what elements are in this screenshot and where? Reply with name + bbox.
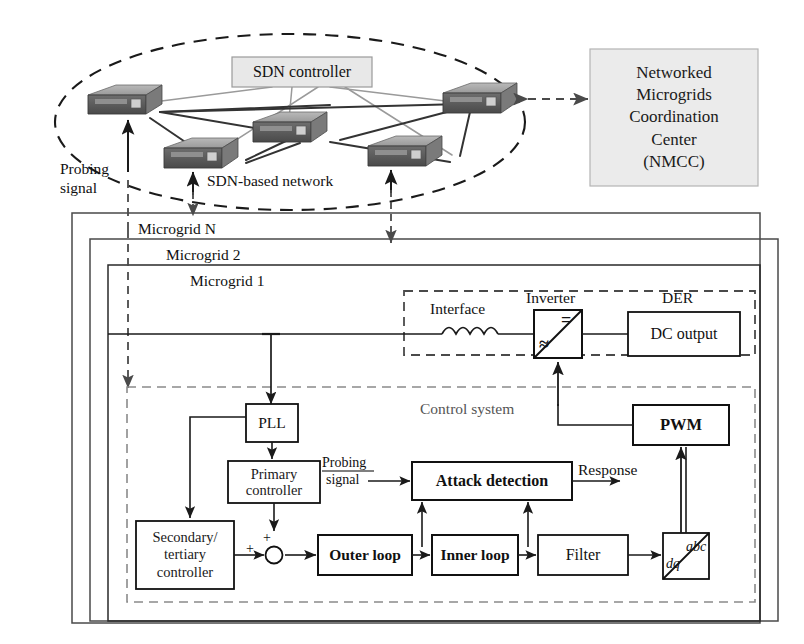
control-probing-label-line2: signal xyxy=(326,472,359,488)
probing-signal-label-line2: signal xyxy=(60,179,97,196)
secondary-controller-line-2: tertiary xyxy=(164,546,206,563)
inverter-dc-symbol: = xyxy=(561,310,571,330)
pll-label: PLL xyxy=(246,404,298,442)
router-icon xyxy=(164,138,238,168)
microgrid-1-label: Microgrid 1 xyxy=(190,272,264,289)
nmcc-line-3: Coordination xyxy=(629,106,719,128)
secondary-controller-line-3: controller xyxy=(157,564,213,581)
control-probing-label-line1: Probing xyxy=(322,455,366,471)
response-label: Response xyxy=(578,461,637,478)
control-system-label: Control system xyxy=(420,400,514,417)
router-icon xyxy=(253,112,327,142)
attack-detection-label: Attack detection xyxy=(412,462,572,500)
outer-loop-label: Outer loop xyxy=(318,535,412,575)
nmcc-line-5: (NMCC) xyxy=(643,151,704,173)
sum-sign-left: + xyxy=(246,541,254,557)
router-icon xyxy=(443,83,517,113)
pwm-label: PWM xyxy=(633,405,729,445)
sdn-network-label: SDN-based network xyxy=(207,172,333,189)
dc-output-label: DC output xyxy=(628,312,740,356)
summing-junction xyxy=(266,547,283,564)
nmcc-line-4: Center xyxy=(651,129,696,151)
probing-signal-label-line1: Probing xyxy=(60,160,109,177)
der-label: DER xyxy=(662,289,693,306)
interface-label: Interface xyxy=(430,300,485,317)
sdn-controller-label: SDN controller xyxy=(232,57,372,87)
nmcc-label: Networked Microgrids Coordination Center… xyxy=(590,49,758,186)
sum-sign-top: + xyxy=(263,530,271,546)
microgrid-2-label: Microgrid 2 xyxy=(166,246,240,263)
inverter-ac-symbol: ≈ xyxy=(539,334,549,354)
primary-controller-label: Primary controller xyxy=(228,461,320,503)
inverter-label: Inverter xyxy=(526,289,575,306)
dq-label: dq xyxy=(666,556,680,572)
secondary-controller-line-1: Secondary/ xyxy=(152,529,217,546)
primary-controller-line-2: controller xyxy=(246,482,302,498)
primary-controller-line-1: Primary xyxy=(251,466,298,482)
router-icon xyxy=(368,136,442,166)
router-icon xyxy=(88,85,162,114)
nmcc-line-2: Microgrids xyxy=(636,84,712,106)
diagram-root: SDN controller SDN-based network Probing… xyxy=(0,0,804,644)
ac-bus xyxy=(108,328,534,405)
microgrid-n-label: Microgrid N xyxy=(138,220,216,237)
inner-loop-label: Inner loop xyxy=(432,535,518,575)
nmcc-line-1: Networked xyxy=(636,62,712,84)
abc-label: abc xyxy=(686,539,706,555)
secondary-controller-label: Secondary/ tertiary controller xyxy=(136,521,234,589)
filter-label: Filter xyxy=(538,535,628,575)
